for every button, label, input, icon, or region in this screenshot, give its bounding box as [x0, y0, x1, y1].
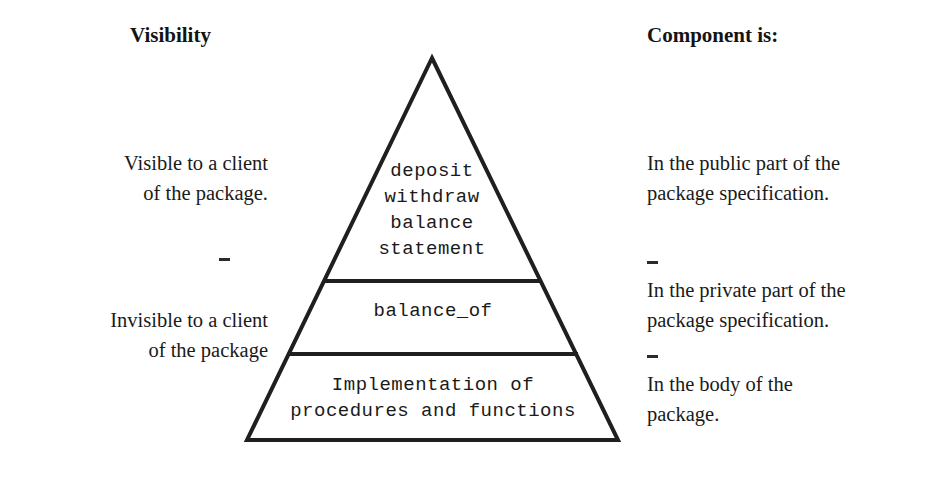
note-line: of the package. [18, 178, 268, 208]
tier-line: deposit [332, 158, 532, 184]
tier-line: balance [332, 210, 532, 236]
note-visible-to-client: Visible to a client of the package. [18, 148, 268, 208]
tier-line: withdraw [332, 184, 532, 210]
note-line: Visible to a client [18, 148, 268, 178]
tier-line: procedures and functions [254, 398, 612, 424]
tier-line: statement [332, 236, 532, 262]
note-line: package specification. [647, 178, 922, 208]
pyramid-tier-private-part: balance_of [306, 298, 560, 324]
scan-artifact-dash-left [219, 258, 230, 261]
note-body-of-package: In the body of the package. [647, 369, 922, 429]
note-line: package specification. [647, 305, 922, 335]
note-public-part-of-spec: In the public part of the package specif… [647, 148, 922, 208]
note-line: of the package [18, 335, 268, 365]
tier-line: Implementation of [254, 372, 612, 398]
pyramid-tier-package-body: Implementation of procedures and functio… [254, 372, 612, 424]
tier-line: balance_of [306, 298, 560, 324]
diagram-canvas: Visibility Component is: deposit withdra… [0, 0, 932, 484]
note-line: In the body of the [647, 369, 922, 399]
note-private-part-of-spec: In the private part of the package speci… [647, 275, 922, 335]
note-line: package. [647, 399, 922, 429]
scan-artifact-dash-right-upper [647, 261, 658, 264]
note-line: In the private part of the [647, 275, 922, 305]
scan-artifact-dash-right-lower [647, 355, 658, 358]
note-line: Invisible to a client [18, 305, 268, 335]
note-line: In the public part of the [647, 148, 922, 178]
pyramid-tier-public-part: deposit withdraw balance statement [332, 158, 532, 262]
note-invisible-to-client: Invisible to a client of the package [18, 305, 268, 365]
